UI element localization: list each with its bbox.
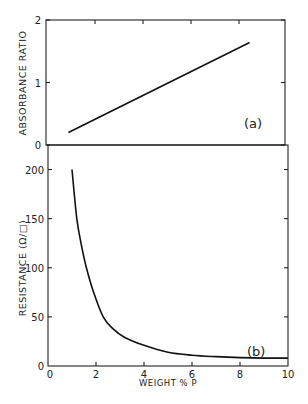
y-axis-label-b: RESISTANCE (Ω/□) <box>17 220 28 317</box>
x-tick-label: 10 <box>282 369 295 380</box>
panel-a-label: (a) <box>244 116 262 131</box>
x-tick-label: 0 <box>47 369 53 380</box>
figure: 012 (a) ABSORBANCE RATIO 050100150200024… <box>0 0 308 404</box>
panel-b: 0501001502000246810 (b) RESISTANCE (Ω/□)… <box>17 145 294 388</box>
x-axis-label: WEIGHT % P <box>139 378 197 388</box>
y-tick-label-a: 1 <box>35 78 41 89</box>
y-tick-label-a: 0 <box>35 140 41 151</box>
y-tick-label-b: 50 <box>31 312 44 323</box>
panel-a: 012 (a) ABSORBANCE RATIO <box>17 15 285 151</box>
series-absorbance-line <box>68 43 249 133</box>
y-axis-label-a: ABSORBANCE RATIO <box>17 31 28 136</box>
panel-b-label: (b) <box>247 344 265 359</box>
x-tick-label: 2 <box>93 369 99 380</box>
series-resistance-line <box>72 170 288 359</box>
x-tick-label: 8 <box>237 369 243 380</box>
y-tick-label-b: 200 <box>25 165 44 176</box>
y-tick-label-b: 0 <box>38 361 44 372</box>
y-tick-label-a: 2 <box>35 15 41 26</box>
